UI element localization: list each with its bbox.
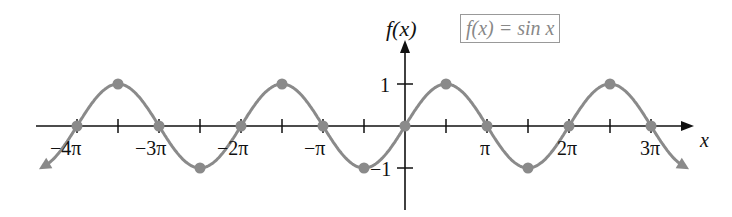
x-tick-3pi: 3π (640, 138, 660, 158)
y-axis-arrow-icon (400, 40, 410, 53)
x-tick-neg3pi: −3π (135, 138, 166, 158)
y-tick-1: 1 (380, 75, 390, 95)
x-axis-label: x (700, 130, 709, 150)
x-tick-neg2pi: −2π (217, 138, 248, 158)
legend: f(x) = sin x (460, 14, 560, 43)
sine-chart (0, 0, 732, 217)
x-tick-neg4pi: −4π (50, 138, 81, 158)
x-tick-2pi: 2π (557, 138, 577, 158)
x-tick-pi: π (480, 138, 490, 158)
x-axis-arrow-icon (681, 121, 694, 131)
y-axis-label: f(x) (386, 18, 417, 40)
x-tick-negpi: −π (304, 138, 325, 158)
y-tick-neg1: −1 (370, 159, 391, 179)
